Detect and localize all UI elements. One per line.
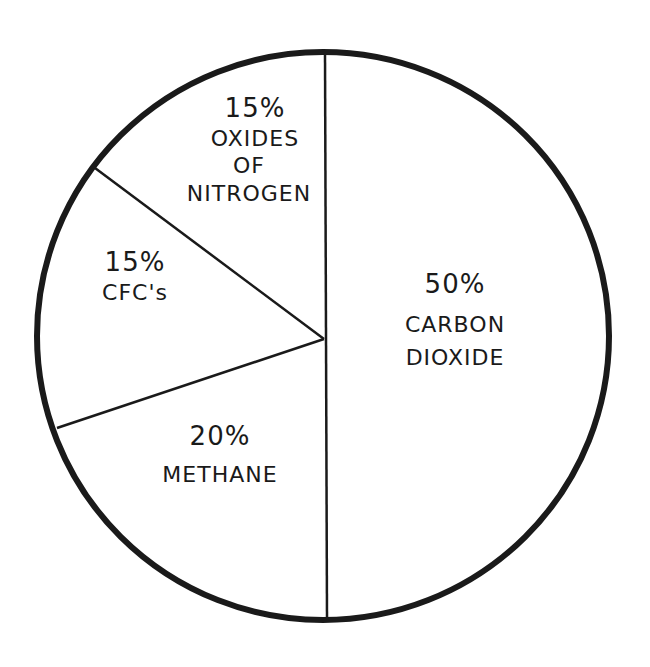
co2-name-line2: DIOXIDE — [375, 344, 535, 372]
divider-cfc-methane — [57, 339, 324, 428]
methane-percent: 20% — [130, 420, 310, 453]
nox-name-line2: OF NITROGEN — [168, 152, 330, 207]
cfc-name: CFC's — [85, 279, 185, 307]
nox-percent: 15% — [180, 92, 330, 125]
cfc-percent: 15% — [85, 246, 185, 279]
slice-label-co2: 50% CARBON DIOXIDE — [375, 268, 535, 372]
co2-percent: 50% — [375, 268, 535, 301]
slice-label-nox: 15% OXIDES OF NITROGEN — [180, 92, 330, 207]
co2-name-line1: CARBON — [375, 311, 535, 339]
methane-name: METHANE — [130, 461, 310, 489]
slice-label-methane: 20% METHANE — [130, 420, 310, 488]
nox-name-line1: OXIDES — [180, 125, 330, 153]
slice-label-cfc: 15% CFC's — [85, 246, 185, 306]
